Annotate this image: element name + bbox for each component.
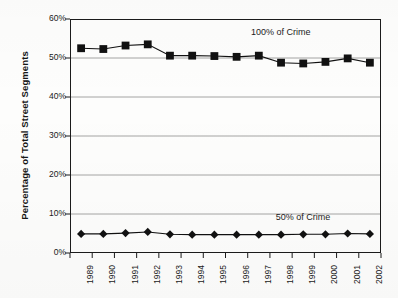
x-tick-label: 1994 [196,265,206,284]
x-axis-tick-labels: 1989199019911992199319941995199619971998… [0,0,398,298]
x-tick-label: 1992 [152,265,162,284]
x-tick-label: 1989 [85,265,95,284]
x-tick-label: 1991 [130,265,140,284]
x-tick-label: 1997 [263,265,273,284]
series-annotation: 100% of Crime [251,27,311,37]
x-tick-label: 2001 [352,265,362,284]
x-tick-label: 1996 [241,265,251,284]
x-tick-label: 1993 [174,265,184,284]
chart-figure: Percentage of Total Street Segments 0%10… [0,0,398,298]
x-tick-label: 1998 [285,265,295,284]
series-annotation: 50% of Crime [276,212,331,222]
x-tick-label: 1990 [107,265,117,284]
x-tick-label: 2000 [329,265,339,284]
x-tick-label: 2002 [374,265,384,284]
x-tick-label: 1999 [307,265,317,284]
x-tick-label: 1995 [218,265,228,284]
